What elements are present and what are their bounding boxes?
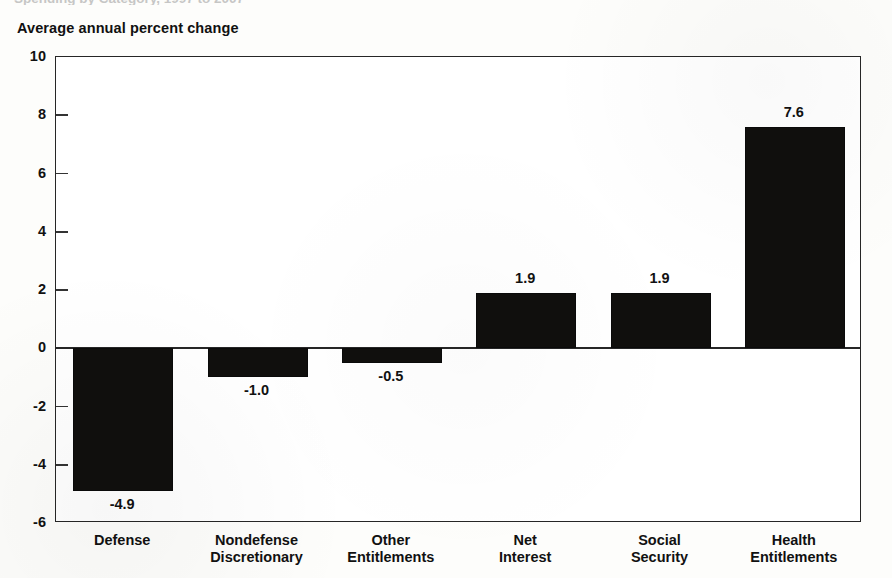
y-axis-tick-label: 10 — [2, 49, 46, 64]
x-axis-category-label: Social Security — [592, 532, 726, 566]
y-axis-tick-label: 4 — [2, 224, 46, 239]
bar-value-label: -4.9 — [42, 497, 202, 512]
chart-plot-area — [55, 56, 861, 522]
zero-baseline — [56, 347, 860, 349]
y-axis-tick-label: 8 — [2, 107, 46, 122]
bar — [476, 293, 576, 348]
y-axis-tick-label: 2 — [2, 282, 46, 297]
bar-value-label: 1.9 — [580, 271, 740, 286]
y-axis-tick — [56, 173, 68, 175]
x-axis-category-label: Health Entitlements — [727, 532, 861, 566]
bar — [208, 348, 308, 377]
x-axis-category-label: Defense — [55, 532, 189, 549]
bar — [745, 127, 845, 348]
bar-value-label: -1.0 — [177, 383, 337, 398]
bar — [611, 293, 711, 348]
cut-off-caption: Spending by Category, 1997 to 2007 — [14, 0, 534, 5]
y-axis-tick — [56, 406, 68, 408]
y-axis-tick-label: 0 — [2, 340, 46, 355]
y-axis-tick — [56, 114, 68, 116]
bar-value-label: -0.5 — [311, 369, 471, 384]
y-axis-tick-label: -4 — [2, 457, 46, 472]
x-axis-category-label: Other Entitlements — [324, 532, 458, 566]
y-axis-tick — [56, 289, 68, 291]
y-axis-tick-label: -6 — [2, 515, 46, 530]
bar-value-label: 7.6 — [714, 105, 874, 120]
x-axis-category-label: Net Interest — [458, 532, 592, 566]
bar — [342, 348, 442, 363]
x-axis-category-label: Nondefense Discretionary — [189, 532, 323, 566]
bar — [73, 348, 173, 491]
y-axis-title: Average annual percent change — [17, 20, 239, 36]
y-axis-tick — [56, 464, 68, 466]
y-axis-tick-label: 6 — [2, 166, 46, 181]
y-axis-tick-label: -2 — [2, 399, 46, 414]
y-axis-tick — [56, 231, 68, 233]
